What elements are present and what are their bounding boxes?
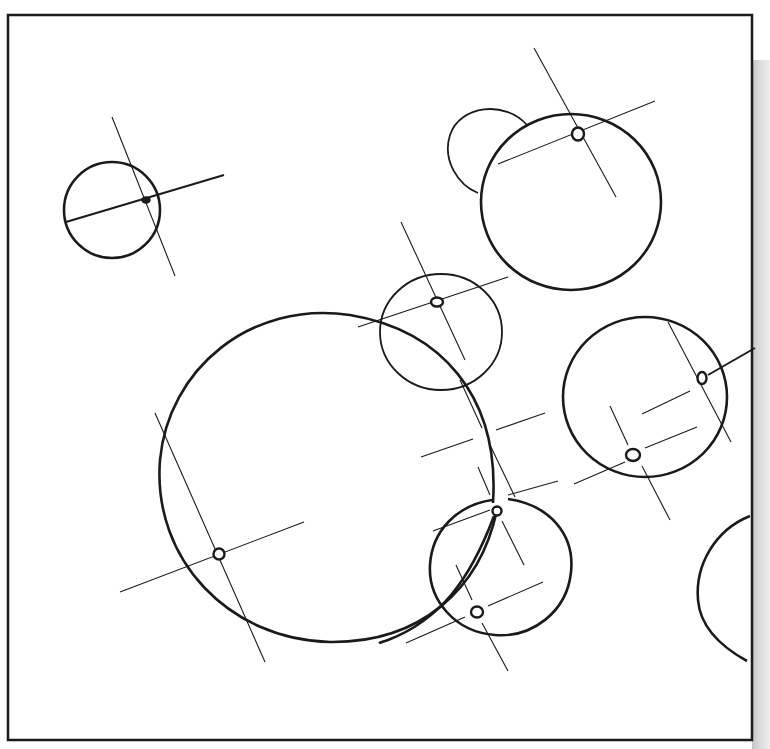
center-point-7: [493, 507, 502, 516]
centerline: [482, 623, 508, 671]
partial-arc-right: [698, 516, 750, 661]
centerline: [534, 48, 616, 197]
circles-diagram: [0, 0, 770, 749]
circle-group-5: [563, 317, 755, 520]
partial-arc-lobe: [448, 109, 527, 193]
centerline: [645, 427, 697, 448]
center-point-5: [698, 372, 707, 384]
centerline: [112, 117, 175, 276]
center-point-1: [142, 197, 150, 203]
drawing-frame: [8, 15, 752, 740]
centerline: [401, 222, 465, 360]
center-point-2: [572, 128, 584, 141]
construction-lines: [421, 380, 625, 497]
centerline: [508, 481, 558, 495]
circle-2: [481, 114, 661, 290]
circle-6: [430, 499, 572, 635]
centerline: [610, 406, 628, 445]
centerline: [460, 380, 482, 428]
connector-arc: [380, 516, 494, 643]
circle-group-1: [64, 117, 224, 276]
circle-group-6: [380, 499, 572, 671]
centerline: [421, 439, 473, 457]
centerline: [488, 582, 543, 606]
circle-group-2: [481, 48, 661, 290]
centerline: [478, 467, 490, 495]
centerline: [120, 522, 304, 592]
center-point-6: [626, 449, 640, 461]
centerline: [433, 510, 490, 531]
circle-group-4: [120, 313, 497, 662]
centerline: [496, 413, 545, 430]
centerline: [502, 521, 524, 565]
centerline: [642, 391, 690, 414]
center-point-3: [431, 298, 443, 307]
circle-group-3: [358, 222, 508, 390]
circle-3: [380, 274, 502, 390]
center-point-4: [214, 549, 225, 560]
circle-5: [563, 317, 727, 477]
center-point-8: [471, 607, 483, 618]
diagram-canvas: [0, 0, 770, 749]
circle-4: [159, 313, 497, 642]
centerline: [708, 348, 755, 375]
circle-1: [64, 162, 160, 258]
centerline: [406, 617, 465, 643]
